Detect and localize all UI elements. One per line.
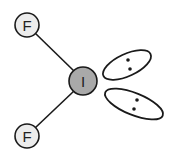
molecule-diagram: F F I — [0, 0, 171, 160]
atom-f-bottom: F — [15, 124, 39, 148]
atom-f-top: F — [15, 13, 39, 37]
electron-dot — [128, 67, 132, 71]
atom-label: I — [81, 73, 85, 90]
lone-pair-lower — [101, 82, 167, 126]
atom-i-central: I — [69, 67, 97, 95]
atom-label: F — [22, 128, 31, 145]
electron-dot — [126, 58, 130, 62]
electron-dot — [135, 98, 139, 102]
atom-label: F — [22, 17, 31, 34]
lone-pair-upper — [99, 44, 155, 86]
bond-i-f-bottom — [35, 91, 74, 128]
bond-i-f-top — [35, 33, 74, 71]
electron-dot — [132, 107, 136, 111]
